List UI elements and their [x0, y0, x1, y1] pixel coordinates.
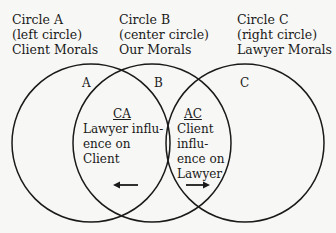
overlap-ac-line-4: Lawyer [177, 167, 224, 182]
circle-a-letter: A [82, 76, 91, 91]
overlap-ac-line-2: influ- [177, 137, 224, 152]
arrow-left-icon [113, 182, 138, 189]
overlap-ac-line-3: ence on [177, 152, 224, 167]
overlap-ac-line-1: Client [177, 122, 224, 137]
circle-c-letter: C [240, 76, 249, 91]
overlap-ca-code: CA [83, 107, 163, 122]
overlap-ca-line-2: ence on [83, 137, 163, 152]
arrow-right-icon [186, 182, 210, 189]
overlap-ac-code: AC [177, 107, 224, 122]
venn-diagram [0, 0, 336, 233]
overlap-ca-line-1: Lawyer influ- [83, 122, 163, 137]
overlap-ac: AC Client influ- ence on Lawyer [177, 107, 224, 182]
circle-b-letter: B [154, 76, 163, 91]
overlap-ca: CA Lawyer influ- ence on Client [83, 107, 163, 167]
overlap-ca-line-3: Client [83, 152, 163, 167]
